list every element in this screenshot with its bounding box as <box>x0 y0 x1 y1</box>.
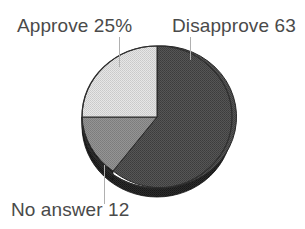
pie-chart: Approve 25% Disapprove 63 No answer 12 <box>0 0 305 229</box>
slice-label-no-answer: No answer 12 <box>11 200 129 219</box>
leader-line-disapprove <box>190 37 191 60</box>
slice-label-disapprove: Disapprove 63 <box>172 16 296 35</box>
leader-line-approve <box>119 37 120 67</box>
slice-label-approve: Approve 25% <box>17 16 132 35</box>
